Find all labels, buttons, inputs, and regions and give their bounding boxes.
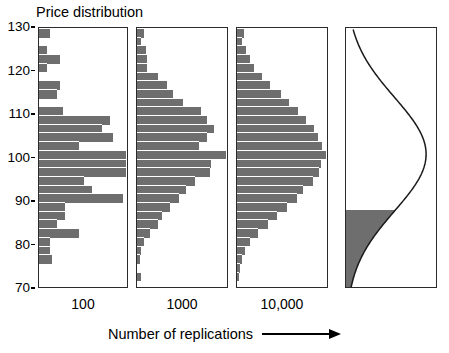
price-distribution-figure: Price distribution 130120110100908070 VA… (0, 0, 449, 353)
y-tick-mark (31, 70, 35, 72)
y-tick-mark (31, 287, 35, 289)
y-tick-label: 130 (7, 20, 30, 34)
normal-density-curve (346, 28, 437, 288)
y-tick-mark (31, 157, 35, 159)
y-tick-mark (31, 244, 35, 246)
panel-100-replications (38, 27, 128, 288)
y-tick-label: 80 (15, 238, 30, 252)
x-tick-label: 1000 (136, 297, 228, 311)
x-tick-label: 100 (38, 297, 128, 311)
y-tick-mark (31, 113, 35, 115)
x-axis-caption: Number of replications (108, 326, 253, 342)
y-tick-label: 120 (7, 64, 30, 78)
histogram-bar (39, 254, 52, 264)
y-tick-label: 110 (8, 107, 30, 121)
histogram-bar (237, 272, 239, 282)
panel-10000-replications (236, 27, 328, 288)
y-tick-label: 100 (7, 151, 30, 165)
x-tick-label: 10,000 (236, 297, 328, 311)
y-tick-label: 90 (15, 194, 30, 208)
histogram-bar (137, 254, 140, 264)
x-axis-arrow-line (262, 333, 330, 335)
y-tick-mark (31, 26, 35, 28)
chart-title: Price distribution (36, 4, 143, 20)
histogram-bar (137, 272, 141, 282)
x-axis-arrow-head (329, 329, 341, 339)
histogram-bar (39, 63, 47, 73)
y-tick-mark (31, 200, 35, 202)
panel-limiting-distribution (345, 27, 437, 288)
panel-1000-replications (136, 27, 228, 288)
histogram-bar (39, 89, 57, 99)
y-tick-label: 70 (15, 281, 30, 295)
histogram-bar (39, 28, 50, 38)
